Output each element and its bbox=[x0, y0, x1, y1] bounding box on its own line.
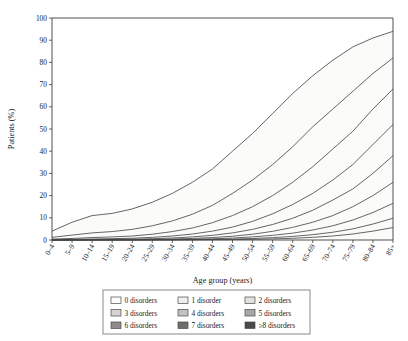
x-tick-label: 50–54 bbox=[240, 242, 257, 263]
x-tick-label: 20–24 bbox=[119, 242, 136, 263]
legend-item[interactable]: 4 disorders bbox=[178, 309, 224, 318]
legend-label-7: 7 disorders bbox=[192, 321, 225, 330]
x-tick-label: 45–49 bbox=[220, 242, 237, 263]
legend-label-2: 2 disorders bbox=[259, 296, 292, 305]
legend-item[interactable]: 1 disorder bbox=[178, 296, 222, 305]
x-tick-label: 40–44 bbox=[200, 242, 217, 263]
x-tick-label: 10–14 bbox=[79, 242, 96, 263]
legend-swatch-7 bbox=[178, 322, 188, 329]
legend-label-0: 0 disorders bbox=[125, 296, 158, 305]
legend-swatch-1 bbox=[178, 297, 188, 304]
x-tick-label: 80–84 bbox=[360, 242, 377, 263]
x-tick-label: 15–19 bbox=[99, 242, 116, 263]
legend-label-3: 3 disorders bbox=[125, 309, 158, 318]
x-axis-title: Age group (years) bbox=[193, 276, 253, 285]
x-tick-label: 75–79 bbox=[340, 242, 357, 263]
y-tick-label: 10 bbox=[40, 213, 48, 222]
legend-swatch-3 bbox=[111, 310, 121, 317]
x-tick-label: 70–74 bbox=[320, 242, 337, 263]
chart-figure: 01020304050607080901000–45–910–1415–1920… bbox=[0, 0, 408, 341]
x-tick-label: 55–59 bbox=[260, 242, 277, 263]
legend-item[interactable]: 6 disorders bbox=[111, 321, 157, 330]
y-tick-label: 50 bbox=[40, 125, 48, 134]
legend-item[interactable]: 2 disorders bbox=[245, 296, 291, 305]
y-axis-title: Patients (%) bbox=[7, 109, 16, 150]
x-tick-label: 60–64 bbox=[280, 242, 297, 263]
legend-item[interactable]: 7 disorders bbox=[178, 321, 224, 330]
y-tick-label: 90 bbox=[40, 36, 48, 45]
y-tick-label: 70 bbox=[40, 80, 48, 89]
x-tick-label: 25–29 bbox=[139, 242, 156, 263]
legend-label-6: 6 disorders bbox=[125, 321, 158, 330]
y-tick-label: 0 bbox=[43, 236, 47, 245]
legend-swatch-0 bbox=[111, 297, 121, 304]
stacked-area-chart: 01020304050607080901000–45–910–1415–1920… bbox=[0, 0, 408, 341]
x-tick-label: 65–69 bbox=[300, 242, 317, 263]
x-tick-label: 30–34 bbox=[160, 242, 177, 263]
legend-item[interactable]: ≥8 disorders bbox=[245, 321, 295, 330]
legend-swatch-2 bbox=[245, 297, 255, 304]
legend-item[interactable]: 5 disorders bbox=[245, 309, 291, 318]
y-tick-label: 30 bbox=[40, 169, 48, 178]
x-tick-label: 35–39 bbox=[180, 242, 197, 263]
legend-swatch-6 bbox=[111, 322, 121, 329]
x-tick-label: 5–9 bbox=[63, 242, 76, 256]
legend-label-5: 5 disorders bbox=[259, 309, 292, 318]
y-tick-label: 100 bbox=[36, 14, 47, 23]
y-tick-label: 20 bbox=[40, 191, 48, 200]
legend-swatch-5 bbox=[245, 310, 255, 317]
y-tick-label: 60 bbox=[40, 102, 48, 111]
legend-swatch-4 bbox=[178, 310, 188, 317]
legend-label-8: ≥8 disorders bbox=[259, 321, 296, 330]
legend-item[interactable]: 0 disorders bbox=[111, 296, 157, 305]
legend-label-1: 1 disorder bbox=[192, 296, 222, 305]
y-tick-label: 80 bbox=[40, 58, 48, 67]
y-tick-label: 40 bbox=[40, 147, 48, 156]
legend-swatch-8 bbox=[245, 322, 255, 329]
x-tick-label: 85+ bbox=[384, 243, 398, 258]
legend-label-4: 4 disorders bbox=[192, 309, 225, 318]
legend-item[interactable]: 3 disorders bbox=[111, 309, 157, 318]
